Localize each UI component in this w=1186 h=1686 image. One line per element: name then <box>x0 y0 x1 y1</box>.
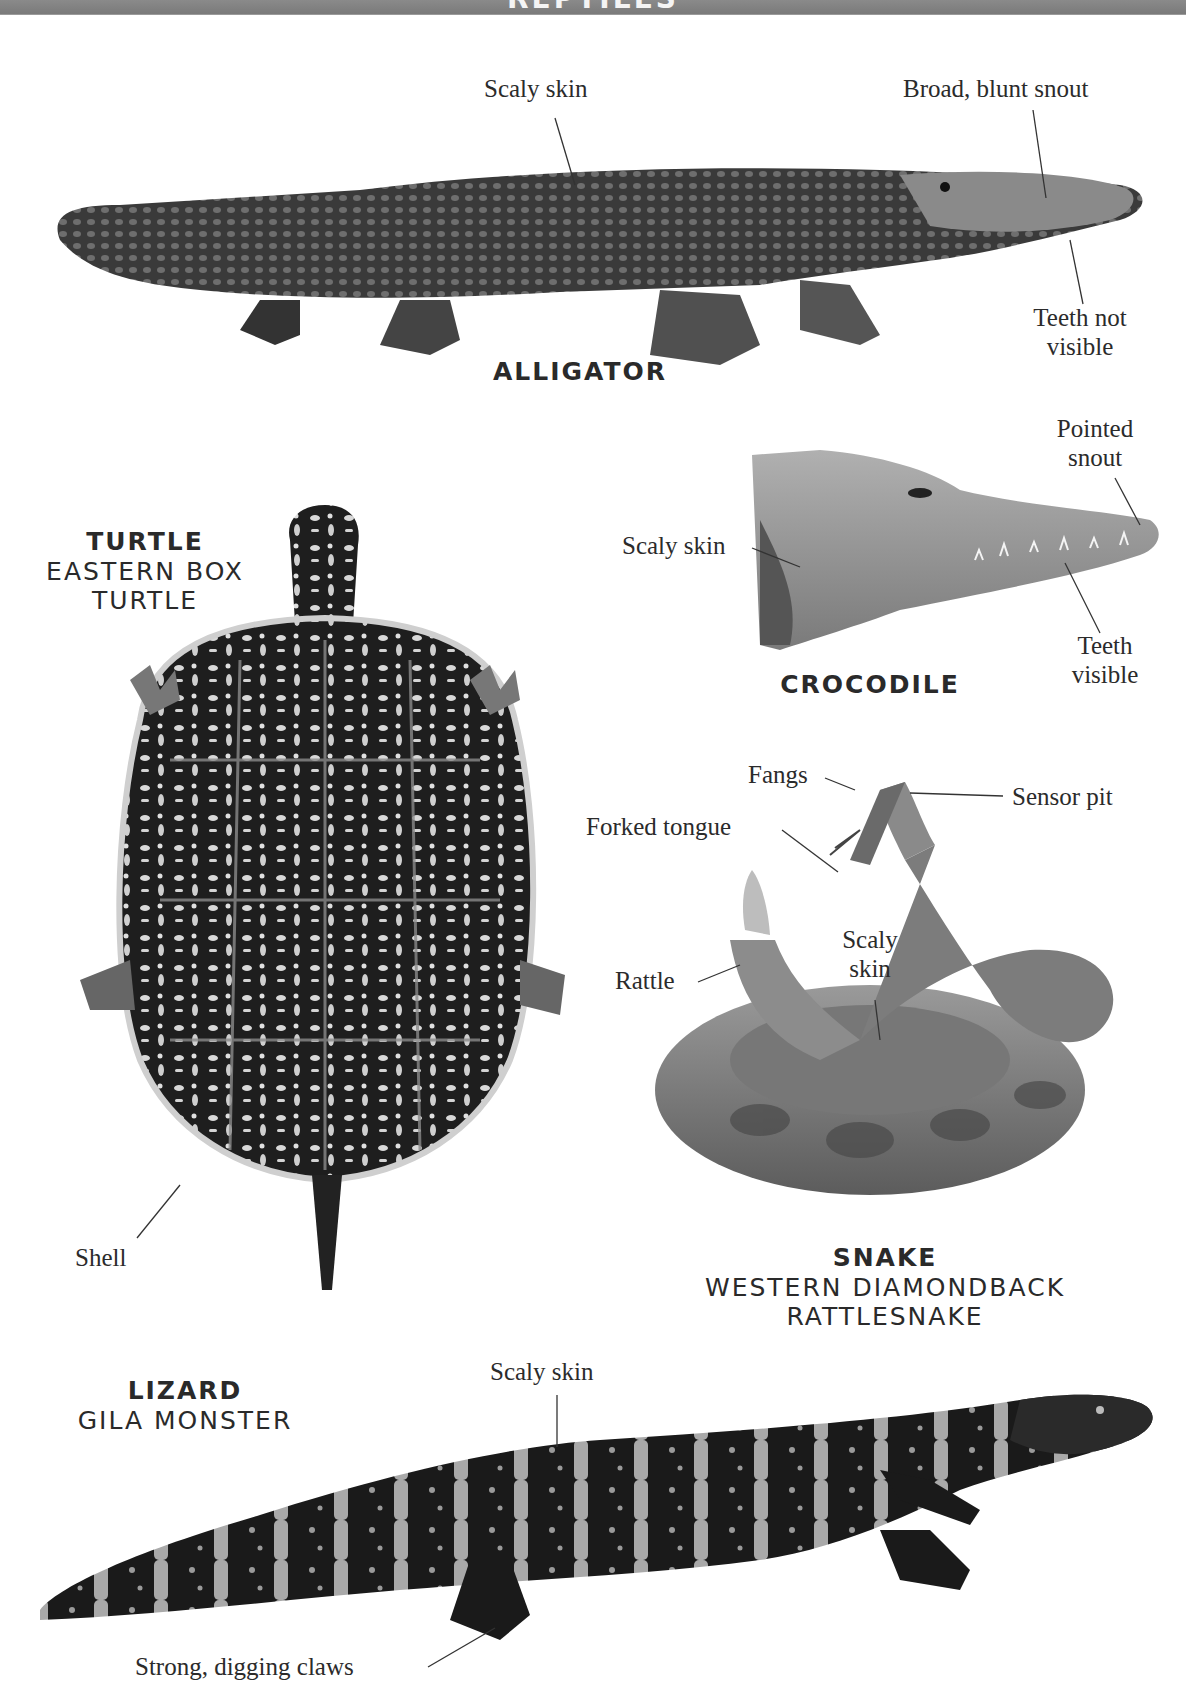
crocodile-scaly-skin-label: Scaly skin <box>622 531 725 560</box>
crocodile-snout-label-line1: Pointed <box>1057 415 1133 442</box>
turtle-title: TURTLE EASTERN BOX TURTLE <box>20 527 270 615</box>
alligator-teeth-label-line1: Teeth not <box>1033 304 1126 331</box>
turtle-subtitle-line2: TURTLE <box>20 586 270 615</box>
snake-forked-tongue-label: Forked tongue <box>586 812 731 841</box>
snake-rattle-label: Rattle <box>615 966 675 995</box>
snake-scaly-skin-line2: skin <box>849 955 891 982</box>
alligator-teeth-label: Teeth not visible <box>1010 303 1150 361</box>
lizard-title-text: LIZARD <box>60 1376 310 1406</box>
snake-scaly-skin-line1: Scaly <box>842 926 898 953</box>
snake-subtitle-line2: RATTLESNAKE <box>640 1302 1130 1331</box>
snake-fangs-label: Fangs <box>748 760 808 789</box>
snake-title-text: SNAKE <box>640 1243 1130 1273</box>
crocodile-snout-label-line2: snout <box>1068 444 1122 471</box>
turtle-illustration <box>80 505 565 1290</box>
turtle-subtitle-line1: EASTERN BOX <box>20 557 270 586</box>
alligator-scaly-skin-label: Scaly skin <box>484 74 587 103</box>
lizard-title: LIZARD GILA MONSTER <box>60 1376 310 1435</box>
crocodile-snout-label: Pointed snout <box>1040 414 1150 472</box>
crocodile-illustration <box>752 450 1159 650</box>
snake-title: SNAKE WESTERN DIAMONDBACK RATTLESNAKE <box>640 1243 1130 1331</box>
snake-subtitle-line1: WESTERN DIAMONDBACK <box>640 1273 1130 1302</box>
turtle-shell-label: Shell <box>75 1243 126 1272</box>
alligator-illustration <box>58 168 1143 365</box>
alligator-snout-label: Broad, blunt snout <box>903 74 1088 103</box>
turtle-title-text: TURTLE <box>20 527 270 557</box>
lizard-claws-label: Strong, digging claws <box>135 1652 354 1681</box>
crocodile-teeth-label-line1: Teeth <box>1077 632 1132 659</box>
snake-sensor-pit-label: Sensor pit <box>1012 782 1113 811</box>
crocodile-title: CROCODILE <box>770 670 970 700</box>
alligator-title: ALLIGATOR <box>470 357 690 387</box>
snake-scaly-skin-label: Scaly skin <box>820 925 920 983</box>
crocodile-teeth-label-line2: visible <box>1072 661 1139 688</box>
crocodile-title-text: CROCODILE <box>770 670 970 700</box>
alligator-teeth-label-line2: visible <box>1047 333 1114 360</box>
lizard-scaly-skin-label: Scaly skin <box>490 1357 593 1386</box>
crocodile-teeth-label: Teeth visible <box>1050 631 1160 689</box>
snake-illustration <box>655 782 1113 1195</box>
alligator-title-text: ALLIGATOR <box>470 357 690 387</box>
lizard-subtitle: GILA MONSTER <box>60 1406 310 1435</box>
